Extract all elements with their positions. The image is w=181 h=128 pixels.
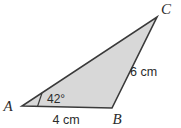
triangle-diagram-svg: A B C 42° 4 cm 6 cm [0,0,181,128]
angle-label-a: 42° [47,92,65,106]
vertex-label-c: C [161,1,172,17]
vertex-label-b: B [112,111,121,127]
side-label-bc: 6 cm [130,65,157,79]
triangle-figure-canvas: A B C 42° 4 cm 6 cm [0,0,181,128]
vertex-label-a: A [2,98,13,114]
side-label-ab: 4 cm [52,113,79,127]
